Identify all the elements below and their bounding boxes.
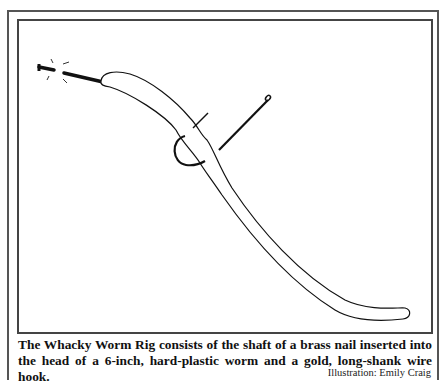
whacky-worm-illustration	[0, 0, 447, 382]
brass-nail-icon	[39, 59, 103, 83]
plastic-worm-icon	[101, 72, 410, 320]
illustration-credit: Illustration: Emily Craig	[328, 367, 431, 378]
